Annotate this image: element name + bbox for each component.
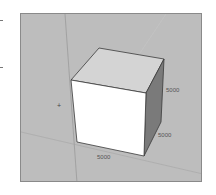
dimension-label-width: 5000 bbox=[97, 154, 110, 160]
dimension-label-depth: 5000 bbox=[158, 132, 171, 138]
scene-drawing bbox=[21, 14, 202, 182]
ruler-tick-top bbox=[0, 20, 3, 21]
3d-viewport[interactable]: + 5000 5000 5000 bbox=[20, 13, 202, 182]
ruler-tick-bottom bbox=[0, 67, 3, 68]
origin-marker: + bbox=[57, 102, 61, 109]
dimension-label-height: 5000 bbox=[166, 87, 179, 93]
